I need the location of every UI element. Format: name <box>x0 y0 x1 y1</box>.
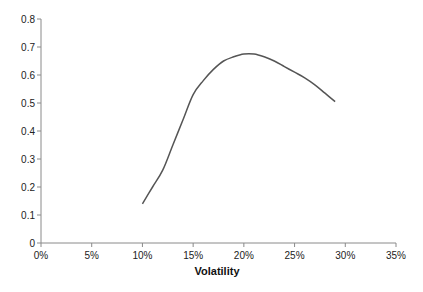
y-tick-label: 0.3 <box>21 154 35 165</box>
y-axis: 00.10.20.30.40.50.60.70.8 <box>21 14 41 249</box>
y-tick-label: 0.4 <box>21 126 35 137</box>
x-tick-label: 15% <box>183 250 203 261</box>
y-tick-label: 0.2 <box>21 182 35 193</box>
x-axis-title: Volatility <box>194 265 240 277</box>
y-tick-label: 0 <box>29 238 35 249</box>
x-tick-label: 25% <box>285 250 305 261</box>
x-tick-label: 5% <box>84 250 99 261</box>
y-tick-label: 0.8 <box>21 14 35 25</box>
x-tick-label: 35% <box>386 250 406 261</box>
series-line <box>142 54 335 204</box>
volatility-line-chart: 00.10.20.30.40.50.60.70.8 0%5%10%15%20%2… <box>0 0 423 292</box>
y-tick-label: 0.5 <box>21 98 35 109</box>
y-tick-label: 0.7 <box>21 42 35 53</box>
x-tick-label: 30% <box>335 250 355 261</box>
x-tick-label: 10% <box>132 250 152 261</box>
x-tick-label: 0% <box>34 250 49 261</box>
y-tick-label: 0.6 <box>21 70 35 81</box>
y-tick-label: 0.1 <box>21 210 35 221</box>
x-axis: 0%5%10%15%20%25%30%35% <box>34 243 406 261</box>
x-tick-label: 20% <box>234 250 254 261</box>
